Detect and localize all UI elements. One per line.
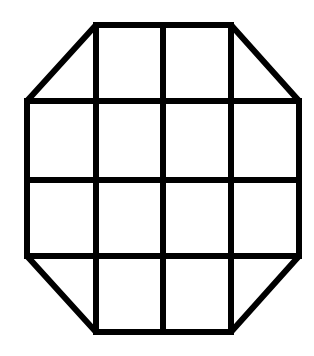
octagon-grid-diagram (0, 0, 314, 356)
